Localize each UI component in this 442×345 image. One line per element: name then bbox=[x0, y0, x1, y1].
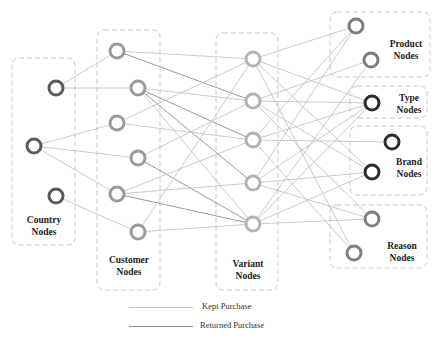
variant-node bbox=[246, 176, 260, 190]
kept-purchase-edge bbox=[253, 172, 372, 224]
kept-purchase-edge bbox=[34, 146, 138, 158]
returned-purchase-edge bbox=[138, 88, 253, 183]
node-layer bbox=[27, 19, 399, 260]
returned-purchase-legend-label: Returned Purchase bbox=[200, 320, 264, 330]
variant-nodes-label: Variant Nodes bbox=[218, 258, 278, 282]
country-node bbox=[27, 139, 41, 153]
variant-node bbox=[246, 52, 260, 66]
kept-purchase-edge bbox=[117, 123, 253, 140]
country-node bbox=[49, 81, 63, 95]
kept-purchase-legend-label: Kept Purchase bbox=[202, 301, 251, 311]
customer-node bbox=[131, 151, 145, 165]
brand-node bbox=[385, 135, 399, 149]
kept-purchase-edge bbox=[253, 140, 392, 142]
variant-node bbox=[246, 217, 260, 231]
kept-purchase-edge bbox=[253, 60, 371, 224]
product-node bbox=[364, 53, 378, 67]
product-node bbox=[349, 19, 363, 33]
reason-node bbox=[347, 246, 361, 260]
kept-purchase-edge bbox=[253, 219, 372, 224]
customer-node bbox=[131, 81, 145, 95]
kept-purchase-edge bbox=[138, 59, 253, 232]
kept-purchase-edge bbox=[253, 101, 372, 103]
customer-nodes-label: Customer Nodes bbox=[99, 254, 159, 278]
kept-purchase-edge bbox=[253, 59, 354, 253]
country-node bbox=[49, 189, 63, 203]
kept-purchase-edge bbox=[253, 60, 371, 101]
type-node bbox=[365, 96, 379, 110]
brand-nodes-label: Brand Nodes bbox=[392, 156, 426, 180]
brand-node bbox=[365, 165, 379, 179]
kept-purchase-legend-line bbox=[129, 307, 193, 308]
returned-purchase-legend-line bbox=[129, 326, 193, 327]
product-nodes-label: Product Nodes bbox=[384, 38, 428, 62]
variant-node bbox=[246, 94, 260, 108]
kept-purchase-edge bbox=[138, 101, 253, 158]
reason-nodes-label: Reason Nodes bbox=[380, 240, 424, 264]
kept-purchase-edge bbox=[253, 26, 356, 140]
type-nodes-label: Type Nodes bbox=[392, 92, 426, 116]
graph-diagram bbox=[0, 0, 442, 345]
kept-purchase-edge bbox=[138, 224, 253, 232]
kept-purchase-edge bbox=[253, 101, 372, 172]
customer-node bbox=[110, 44, 124, 58]
customer-node bbox=[110, 187, 124, 201]
returned-purchase-edge bbox=[138, 88, 253, 140]
customer-node bbox=[131, 225, 145, 239]
customer-node bbox=[110, 116, 124, 130]
variant-node bbox=[246, 133, 260, 147]
reason-node bbox=[365, 212, 379, 226]
customer-group-box bbox=[97, 30, 160, 290]
edge-layer bbox=[34, 26, 392, 253]
kept-purchase-edge bbox=[56, 51, 117, 88]
country-nodes-label: Country Nodes bbox=[18, 214, 70, 238]
returned-purchase-edge bbox=[117, 194, 253, 224]
kept-purchase-edge bbox=[117, 140, 253, 194]
kept-purchase-edge bbox=[138, 88, 253, 224]
kept-purchase-edge bbox=[117, 51, 253, 59]
kept-purchase-edge bbox=[253, 26, 356, 183]
